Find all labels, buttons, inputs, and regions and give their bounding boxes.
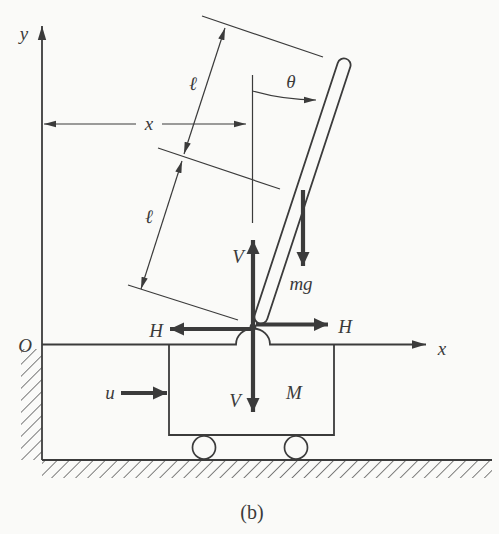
ground-hatching bbox=[42, 461, 492, 478]
pivot-point bbox=[250, 324, 257, 331]
cart-wheel-left bbox=[193, 436, 216, 459]
paper-background bbox=[0, 0, 499, 534]
x-displacement-label: x bbox=[144, 113, 154, 134]
cart-mass-label: M bbox=[285, 382, 303, 403]
wall-hatching bbox=[21, 349, 42, 460]
h-left-label: H bbox=[148, 320, 164, 341]
mg-label: mg bbox=[289, 273, 312, 294]
cart-wheel-right bbox=[285, 436, 308, 459]
figure-caption: (b) bbox=[240, 501, 263, 524]
y-axis-label: y bbox=[18, 23, 29, 44]
x-axis-label: x bbox=[437, 338, 447, 359]
lower-length-label: ℓ bbox=[145, 206, 153, 227]
origin-label: O bbox=[18, 335, 32, 356]
theta-label: θ bbox=[286, 71, 295, 92]
figure-canvas: y x O x ℓ ℓ θ V V H H mg u M (b) bbox=[0, 0, 499, 534]
inverted-pendulum-on-cart-figure: y x O x ℓ ℓ θ V V H H mg u M (b) bbox=[0, 0, 499, 534]
u-label: u bbox=[105, 382, 115, 403]
h-right-label: H bbox=[337, 316, 353, 337]
upper-length-label: ℓ bbox=[189, 73, 197, 94]
